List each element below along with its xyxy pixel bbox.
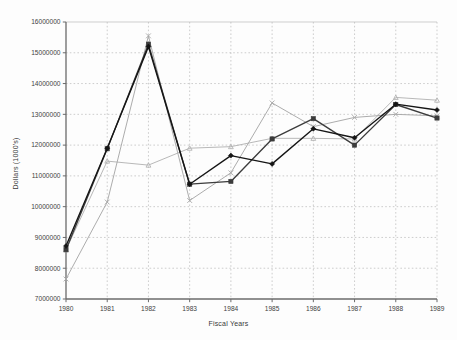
series-congress: [64, 33, 440, 281]
svg-text:15000000: 15000000: [31, 49, 61, 56]
x-axis-tick-labels: 1980198119821983198419851986198719881989: [59, 299, 445, 312]
svg-text:9000000: 9000000: [35, 234, 61, 241]
svg-text:7000000: 7000000: [35, 295, 61, 302]
svg-text:1981: 1981: [100, 305, 115, 312]
svg-text:8000000: 8000000: [35, 265, 61, 272]
svg-text:1988: 1988: [388, 305, 403, 312]
svg-text:10000000: 10000000: [31, 203, 61, 210]
svg-text:13000000: 13000000: [31, 111, 61, 118]
svg-text:1982: 1982: [141, 305, 156, 312]
svg-text:1983: 1983: [182, 305, 197, 312]
svg-text:1989: 1989: [430, 305, 445, 312]
x-axis-title: Fiscal Years: [0, 320, 457, 327]
series-dept: [64, 42, 439, 252]
svg-text:14000000: 14000000: [31, 80, 61, 87]
y-axis-title: Dollars (1000's): [12, 128, 19, 200]
svg-text:16000000: 16000000: [31, 18, 61, 25]
line-chart: 7000000800000090000001000000011000000120…: [0, 0, 457, 340]
y-axis-tick-labels: 7000000800000090000001000000011000000120…: [31, 18, 66, 302]
svg-text:1984: 1984: [224, 305, 239, 312]
svg-text:11000000: 11000000: [32, 172, 61, 179]
chart-canvas: 7000000800000090000001000000011000000120…: [0, 0, 457, 340]
series-agencies: [64, 44, 440, 248]
svg-text:1987: 1987: [347, 305, 362, 312]
svg-text:12000000: 12000000: [31, 141, 61, 148]
svg-text:1985: 1985: [265, 305, 280, 312]
svg-text:1980: 1980: [59, 305, 74, 312]
svg-text:1986: 1986: [306, 305, 321, 312]
data-series-layer: [64, 33, 440, 281]
